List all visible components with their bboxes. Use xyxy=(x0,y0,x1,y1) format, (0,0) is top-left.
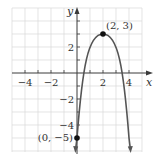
vertex-label: (2, 3) xyxy=(106,20,133,31)
curve-arrow-right-icon xyxy=(128,146,133,153)
intercept-label: (0, −5) xyxy=(38,132,73,143)
parabola-graph: −4 −2 2 4 x 2 −2 −4 y (2, 3) (0, −5) xyxy=(0,0,160,159)
y-tick-label: −2 xyxy=(59,94,74,105)
x-axis-label: x xyxy=(146,76,153,89)
x-tick-label: 4 xyxy=(126,77,132,88)
x-tick-label: −4 xyxy=(18,77,33,88)
intercept-point xyxy=(74,135,80,141)
x-axis-arrow-icon xyxy=(146,71,153,76)
vertex-point xyxy=(100,31,106,37)
x-tick-label: 2 xyxy=(100,77,106,88)
y-tick-label: −4 xyxy=(59,120,74,131)
y-axis-label: y xyxy=(66,5,74,18)
x-tick-label: −2 xyxy=(44,77,59,88)
y-tick-label: 2 xyxy=(68,42,74,53)
